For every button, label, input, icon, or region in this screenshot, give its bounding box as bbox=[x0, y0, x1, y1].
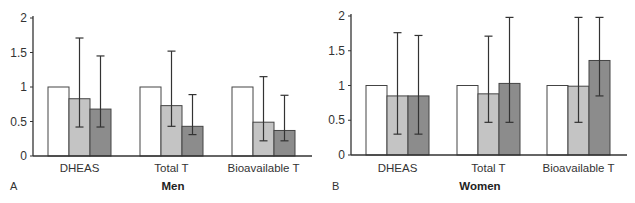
panel-title: Women bbox=[459, 180, 500, 192]
bar bbox=[457, 86, 478, 156]
category-label: Bioavailable T bbox=[227, 162, 299, 174]
category-label: Total T bbox=[154, 162, 188, 174]
category-label: DHEAS bbox=[378, 162, 418, 174]
y-tick-label: 0.5 bbox=[328, 113, 345, 127]
y-tick-label: 0 bbox=[338, 148, 345, 162]
panel-letter: A bbox=[10, 180, 18, 192]
y-tick-label: 2 bbox=[338, 9, 345, 23]
y-tick-label: 0 bbox=[20, 149, 27, 163]
y-tick-label: 2 bbox=[20, 11, 27, 25]
y-tick-label: 1.5 bbox=[328, 44, 345, 58]
y-tick-label: 0.5 bbox=[10, 115, 27, 129]
y-tick-label: 1.5 bbox=[10, 46, 27, 60]
panel-men: 00.511.52DHEASTotal TBioavailable TAMen bbox=[10, 11, 312, 192]
panel-women: 00.511.52DHEASTotal TBioavailable TBWome… bbox=[328, 9, 627, 192]
y-tick-label: 1 bbox=[20, 80, 27, 94]
category-label: Bioavailable T bbox=[542, 162, 614, 174]
bar bbox=[48, 87, 69, 156]
bar bbox=[366, 86, 387, 156]
panel-letter: B bbox=[332, 180, 339, 192]
category-label: Total T bbox=[471, 162, 505, 174]
y-tick-label: 1 bbox=[338, 79, 345, 93]
panel-title: Men bbox=[162, 180, 185, 192]
bar bbox=[547, 86, 568, 156]
figure: 00.511.52DHEASTotal TBioavailable TAMen … bbox=[0, 0, 635, 203]
bar bbox=[232, 87, 253, 156]
category-label: DHEAS bbox=[60, 162, 100, 174]
bar bbox=[140, 87, 161, 156]
